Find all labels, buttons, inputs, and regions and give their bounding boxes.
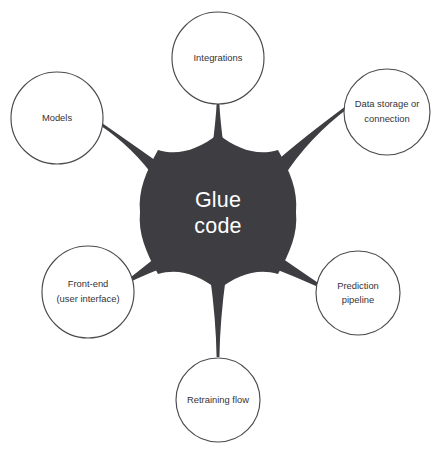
node-models-label: Models (42, 112, 73, 123)
node-front-end-user-interface[interactable]: Front-end (user interface) (42, 246, 134, 338)
node-data-storage-or-connection-label-line2: connection (364, 113, 409, 124)
node-data-storage-or-connection-label-line1: Data storage or (355, 98, 420, 109)
node-prediction-pipeline-label-line1: Prediction (337, 280, 379, 291)
glue-code-hub-diagram: Glue code Integrations Data storage or c… (0, 0, 437, 450)
hub-label-line1: Glue (195, 188, 241, 212)
node-front-end-user-interface-label-line2: (user interface) (56, 293, 119, 304)
diagram-canvas: Glue code Integrations Data storage or c… (0, 0, 437, 450)
node-front-end-user-interface-label-line1: Front-end (68, 278, 109, 289)
hub-shape (140, 134, 297, 290)
node-retraining-flow[interactable]: Retraining flow (176, 358, 260, 442)
node-integrations[interactable]: Integrations (172, 12, 264, 104)
node-data-storage-or-connection[interactable]: Data storage or connection (344, 69, 430, 155)
node-prediction-pipeline-circle[interactable] (316, 251, 400, 335)
node-prediction-pipeline-label-line2: pipeline (342, 294, 374, 305)
node-retraining-flow-label: Retraining flow (187, 394, 249, 405)
node-integrations-label: Integrations (194, 52, 243, 63)
node-models[interactable]: Models (11, 72, 103, 164)
node-prediction-pipeline[interactable]: Prediction pipeline (316, 251, 400, 335)
hub-label-line2: code (194, 214, 241, 238)
node-front-end-user-interface-circle[interactable] (42, 246, 134, 338)
node-data-storage-or-connection-circle[interactable] (344, 69, 430, 155)
